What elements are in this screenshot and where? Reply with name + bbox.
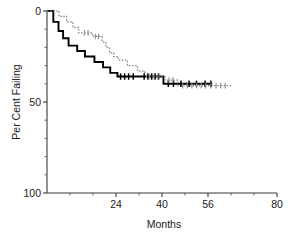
y-tick-label: 100 — [23, 187, 41, 199]
x-tick-label: 24 — [110, 198, 122, 210]
y-axis-tick-labels: 050100 — [23, 5, 41, 199]
y-tick-label: 50 — [29, 96, 41, 108]
x-tick-label: 80 — [271, 198, 283, 210]
y-axis-title: Per Cent Failing — [10, 64, 22, 139]
series-dotted-curve — [47, 11, 231, 86]
data-series-layer — [47, 11, 231, 86]
x-tick-label: 40 — [156, 198, 168, 210]
chart-container: 050100 24405680 Per Cent Failing Months — [0, 0, 292, 242]
x-axis-tick-labels: 24405680 — [110, 198, 283, 210]
x-tick-label: 56 — [202, 198, 214, 210]
x-axis-title: Months — [147, 218, 181, 230]
series-solid-curve — [47, 11, 212, 84]
y-axis-major-ticks — [43, 11, 47, 193]
km-survival-plot: 050100 24405680 Per Cent Failing Months — [0, 0, 292, 242]
y-tick-label: 0 — [35, 5, 41, 17]
x-axis-major-ticks — [116, 193, 277, 197]
censoring-marks-layer — [84, 30, 225, 88]
